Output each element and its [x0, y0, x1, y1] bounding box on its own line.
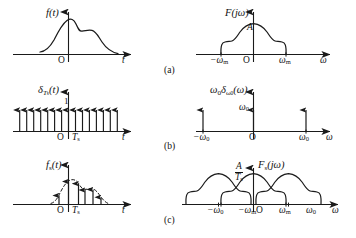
panel-c-right-replica-right — [256, 174, 321, 205]
panel-b-right-tick-label-pos: ω0 — [299, 133, 309, 143]
panel-b-left-y-label: δTs(t) — [38, 85, 59, 97]
panel-a-right-tick-label-neg: −ωm — [210, 56, 228, 66]
panel-c-left-period-label: Ts — [72, 206, 80, 216]
panel-c-left-y-label: fs(t) — [46, 160, 62, 172]
panel-b-left-origin-label: O — [57, 133, 64, 143]
panel-a-left-y-label: f(t) — [46, 8, 59, 19]
panel-c-right-tick-label-right: ωm — [279, 206, 291, 216]
panel-a-right-x-label: ω — [320, 56, 327, 66]
panel-a-right-peak-label: A — [247, 23, 253, 33]
figure-canvas — [0, 0, 356, 238]
panel-c-right-tick-label-left: −ωm — [238, 206, 256, 216]
panel-a-left-curve — [40, 19, 118, 53]
panel-b-left-impulse-train — [20, 110, 118, 132]
panel-b-right-x-label: ω — [326, 133, 333, 143]
panel-a-left-plot — [13, 12, 131, 62]
panel-c-right-x-label: ω — [332, 206, 339, 216]
panel-b-right-origin-label: O — [249, 133, 256, 143]
panel-tag-a: (a) — [164, 65, 175, 75]
panel-c-right-tick-label-far-right: ω0 — [306, 206, 316, 216]
panel-tag-b: (b) — [164, 141, 175, 151]
panel-a-left-x-label: t — [122, 56, 125, 66]
panel-b-right-y-label: ω0δω0(ω) — [210, 85, 248, 97]
panel-b-right-amplitude-label: ω0 — [239, 103, 249, 113]
panel-b-left-x-label: t — [122, 133, 125, 143]
panel-c-left-x-label: t — [122, 206, 125, 216]
panel-b-right-tick-label-neg: −ω0 — [193, 133, 209, 143]
peak-denominator: Ts — [235, 172, 243, 183]
panel-c-left-origin-label: O — [57, 206, 64, 216]
panel-c-right-peak-fraction: A Ts — [235, 162, 243, 183]
panel-c-right-origin-label: O — [256, 206, 263, 216]
panel-a-right-y-label: F(jω) — [225, 8, 249, 19]
panel-tag-c: (c) — [164, 215, 175, 225]
panel-c-right-tick-label-far-left: −ω0 — [207, 206, 223, 216]
panel-a-right-tick-label-pos: ωm — [279, 56, 291, 66]
panel-a-left-origin-label: O — [58, 56, 65, 66]
panel-b-left-period-label: Ts — [72, 133, 80, 143]
peak-numerator: A — [235, 162, 243, 172]
panel-b-left-amplitude-label: 1 — [64, 97, 69, 106]
panel-b-right-impulses — [203, 110, 306, 132]
panel-c-left-envelope — [51, 180, 109, 204]
panel-c-right-y-label: Fs(jω) — [258, 160, 285, 172]
figure-root: f(t) O t F(jω) A −ωm O ωm ω δTs(t) 1 O T… — [0, 0, 356, 238]
panel-b-right-plot — [196, 92, 330, 139]
panel-a-right-origin-label: O — [243, 56, 250, 66]
